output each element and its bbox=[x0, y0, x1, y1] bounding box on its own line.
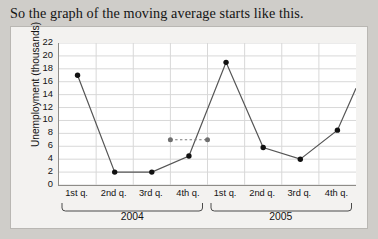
x-axis-tick-label: 4th q. bbox=[313, 188, 359, 198]
y-axis-tick-label: 0 bbox=[31, 179, 53, 188]
y-axis-tick-label: 8 bbox=[31, 127, 53, 136]
series-line-unemployment bbox=[78, 62, 356, 172]
data-point-marker bbox=[223, 60, 228, 65]
data-point-marker bbox=[149, 169, 154, 174]
y-axis-tick-label: 14 bbox=[31, 89, 53, 98]
y-axis-tick-labels: 2220181614121086420 bbox=[29, 41, 53, 184]
x-axis-year-groups: 20042005 bbox=[58, 203, 355, 229]
y-axis-tick-label: 18 bbox=[31, 63, 53, 72]
y-axis-tick-label: 4 bbox=[31, 153, 53, 162]
data-point-marker bbox=[335, 127, 340, 132]
moving-average-point-marker bbox=[205, 137, 210, 142]
data-point-marker bbox=[186, 153, 191, 158]
chart-panel: Unemployment (thousands) 222018161412108… bbox=[10, 26, 368, 229]
y-axis-tick-label: 2 bbox=[31, 166, 53, 175]
data-point-marker bbox=[112, 169, 117, 174]
data-point-marker bbox=[75, 73, 80, 78]
y-axis-tick-label: 20 bbox=[31, 50, 53, 59]
y-axis-tick-label: 6 bbox=[31, 140, 53, 149]
y-axis-tick-label: 12 bbox=[31, 102, 53, 111]
moving-average-point-marker bbox=[168, 137, 173, 142]
y-axis-tick-label: 10 bbox=[31, 114, 53, 123]
series-canvas bbox=[59, 43, 356, 185]
x-axis-tick-labels: 1st q.2nd q.3rd q.4th q.1st q.2nd q.3rd … bbox=[58, 188, 355, 202]
plot-area bbox=[58, 43, 356, 186]
year-group-label: 2005 bbox=[210, 211, 353, 222]
y-axis-tick-label: 22 bbox=[31, 37, 53, 46]
data-point-marker bbox=[298, 156, 303, 161]
caption-text: So the graph of the moving average start… bbox=[10, 5, 370, 22]
year-group: 2005 bbox=[210, 203, 353, 229]
y-axis-tick-label: 16 bbox=[31, 76, 53, 85]
data-point-marker bbox=[260, 145, 265, 150]
year-group: 2004 bbox=[61, 203, 204, 229]
figure-container: So the graph of the moving average start… bbox=[0, 0, 378, 239]
year-group-label: 2004 bbox=[61, 211, 204, 222]
